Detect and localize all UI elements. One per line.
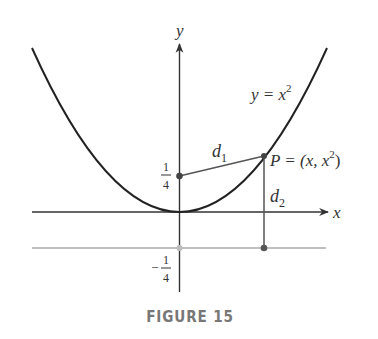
- curve-label-lhs: y = x: [249, 85, 287, 104]
- point-p-label-prefix: P = (x, x: [269, 151, 330, 170]
- point-p-label: P = (x, x2): [269, 148, 340, 170]
- directrix-tick-sign: −: [151, 260, 158, 275]
- d2-sub: 2: [279, 196, 285, 210]
- directrix-foot-point: [261, 245, 268, 252]
- y-axis-label: y: [174, 21, 184, 40]
- focus-tick-den: 4: [163, 178, 169, 192]
- figure-caption: FIGURE 15: [146, 307, 234, 325]
- x-axis-label: x: [332, 203, 341, 222]
- focus-tick-label: 1 4: [161, 160, 171, 192]
- focus-point: [176, 173, 183, 180]
- parabola-diagram: y x y = x2 d1 P = (x, x2) d2 1 4 − 1 4 F…: [0, 0, 378, 339]
- directrix-tick-label: − 1 4: [151, 253, 171, 285]
- d1-label: d1: [212, 141, 227, 165]
- point-p-label-suffix: ): [335, 151, 341, 170]
- curve-label: y = x2: [249, 82, 292, 104]
- directrix-tick-num: 1: [163, 253, 169, 267]
- d2-label: d2: [270, 186, 285, 210]
- directrix-tick-den: 4: [163, 271, 169, 285]
- directrix-origin-point: [177, 245, 183, 251]
- curve-label-exp: 2: [286, 82, 292, 94]
- focus-tick-num: 1: [163, 160, 169, 174]
- d1-sub: 1: [221, 151, 227, 165]
- point-p: [261, 153, 267, 159]
